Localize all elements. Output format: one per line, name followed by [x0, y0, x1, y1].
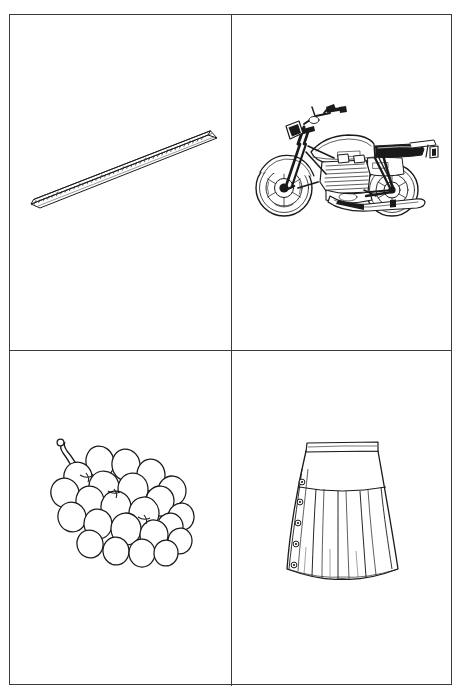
cell-motorcycle[interactable]: Motorcycle — [232, 15, 451, 350]
worksheet-page: Ruler — [0, 0, 461, 689]
motorcycle-icon — [242, 100, 442, 225]
cell-grapes[interactable]: Grapes — [10, 351, 231, 686]
skirt-icon — [280, 429, 405, 594]
cell-ruler[interactable]: Ruler — [10, 15, 231, 350]
grapes-icon — [38, 429, 198, 574]
cell-skirt[interactable]: Skirt — [232, 351, 451, 686]
ruler-icon — [24, 125, 224, 215]
worksheet-frame: Ruler — [9, 14, 452, 685]
